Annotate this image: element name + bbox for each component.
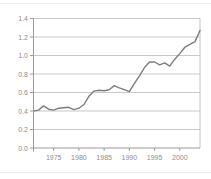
series-line xyxy=(34,31,201,112)
y-tick-label-0.6: 0.6 xyxy=(18,89,28,96)
x-tick-label-1985: 1985 xyxy=(96,154,112,161)
y-tick-label-0.8: 0.8 xyxy=(18,71,28,78)
bottom-divider xyxy=(0,172,211,173)
line-chart: 0.00.20.40.60.81.01.21.41975198019851990… xyxy=(0,0,211,179)
y-tick-label-1.2: 1.2 xyxy=(18,34,28,41)
x-tick-label-1980: 1980 xyxy=(71,154,87,161)
y-tick-label-0.0: 0.0 xyxy=(18,145,28,152)
x-tick-label-1975: 1975 xyxy=(46,154,62,161)
x-tick-label-1990: 1990 xyxy=(122,154,138,161)
page: 0.00.20.40.60.81.01.21.41975198019851990… xyxy=(0,0,211,179)
x-tick-label-1995: 1995 xyxy=(147,154,163,161)
y-tick-label-0.4: 0.4 xyxy=(18,108,28,115)
y-tick-label-0.2: 0.2 xyxy=(18,126,28,133)
chart-canvas: 0.00.20.40.60.81.01.21.41975198019851990… xyxy=(0,0,211,179)
x-tick-label-2000: 2000 xyxy=(172,154,188,161)
y-tick-label-1.0: 1.0 xyxy=(18,52,28,59)
y-tick-label-1.4: 1.4 xyxy=(18,15,28,22)
